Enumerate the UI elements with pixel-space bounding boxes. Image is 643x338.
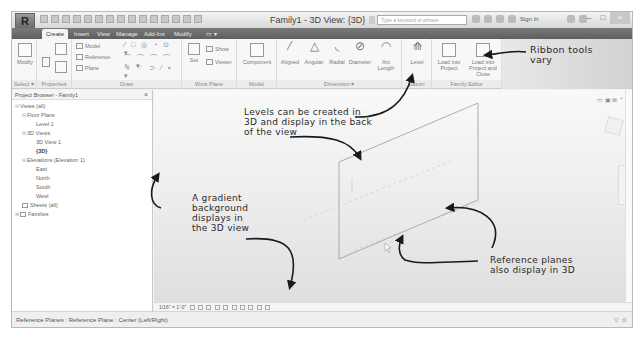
redo-icon[interactable] bbox=[73, 15, 81, 23]
modify-tool[interactable]: Modify bbox=[15, 43, 35, 65]
crop-region-icon[interactable] bbox=[240, 305, 245, 310]
load-into-project-close-tool[interactable]: Load into Project and Close bbox=[465, 43, 501, 77]
temp-hide-icon[interactable] bbox=[257, 305, 262, 310]
project-browser: Project Browser - Family1 × ⊟Views (all)… bbox=[12, 90, 153, 311]
3d-view-icon[interactable] bbox=[139, 15, 147, 23]
render-icon[interactable] bbox=[223, 305, 228, 310]
tree-item-3d-view-1[interactable]: 3D View 1 bbox=[12, 138, 152, 147]
maximize-button[interactable]: □ bbox=[596, 12, 610, 24]
dimension-panel-label[interactable]: Dimension ▾ bbox=[277, 80, 401, 88]
draw-shapes-row-3[interactable]: ∿ ⌔ ⊃ ⁄ ▪ ▾ bbox=[124, 63, 181, 80]
dimension-icon[interactable] bbox=[106, 15, 114, 23]
reference-plane-tool[interactable]: Plane bbox=[76, 65, 99, 71]
save-icon[interactable] bbox=[51, 15, 59, 23]
work-plane-viewer-tool[interactable]: Viewer bbox=[206, 59, 232, 65]
family-types-tool[interactable] bbox=[54, 43, 68, 57]
aligned-dimension-tool[interactable]: ⁄Aligned bbox=[279, 43, 301, 65]
radial-dimension-tool[interactable]: ◟Radial bbox=[327, 43, 347, 65]
tree-item-east[interactable]: East bbox=[12, 165, 152, 174]
print-icon[interactable] bbox=[84, 15, 92, 23]
tree-item-views-all[interactable]: ⊟Views (all) bbox=[12, 102, 152, 111]
switch-windows-icon[interactable] bbox=[183, 15, 191, 23]
close-icon[interactable]: × bbox=[144, 90, 148, 100]
tree-item-north[interactable]: North bbox=[12, 174, 152, 183]
tag-icon[interactable] bbox=[117, 15, 125, 23]
tree-item-level-1[interactable]: Level 1 bbox=[12, 120, 152, 129]
tab-create[interactable]: Create bbox=[42, 29, 68, 39]
level-tool[interactable]: ⟰Level bbox=[406, 43, 428, 65]
shadows-icon[interactable] bbox=[215, 305, 220, 310]
project-browser-header: Project Browser - Family1 × bbox=[12, 90, 152, 100]
application-menu-button[interactable]: R bbox=[15, 13, 35, 29]
viewer-icon bbox=[206, 59, 213, 65]
binoculars-icon[interactable] bbox=[472, 15, 480, 23]
tree-item-families[interactable]: ⊞Families bbox=[12, 210, 152, 219]
plane-label: Plane bbox=[85, 65, 99, 71]
tab-manage[interactable]: Manage bbox=[112, 29, 142, 39]
set-work-plane-tool[interactable]: Set bbox=[186, 43, 202, 63]
select-panel-label[interactable]: Select ▾ bbox=[12, 80, 36, 88]
tree-item-sheets[interactable]: Sheets (all) bbox=[12, 201, 152, 210]
load-into-project-label: Load into Project bbox=[438, 59, 461, 71]
annotation-line: A gradient bbox=[192, 193, 249, 203]
arc-length-dimension-tool[interactable]: ◠Arc Length bbox=[374, 43, 398, 71]
section-icon[interactable] bbox=[150, 15, 158, 23]
model-line-tool[interactable]: Model bbox=[76, 43, 100, 49]
close-hidden-icon[interactable] bbox=[172, 15, 180, 23]
customize-qat-icon[interactable] bbox=[194, 15, 202, 23]
tab-insert[interactable]: Insert bbox=[70, 29, 93, 39]
viewcube[interactable] bbox=[604, 116, 624, 136]
component-tool[interactable]: Component bbox=[239, 43, 275, 65]
tree-item-3d-views[interactable]: ⊟3D Views bbox=[12, 129, 152, 138]
tree-label: Views (all) bbox=[20, 103, 45, 109]
sign-in-link[interactable]: Sign In bbox=[520, 16, 539, 22]
undo-icon[interactable] bbox=[62, 15, 70, 23]
tab-modify[interactable]: Modify bbox=[170, 29, 196, 39]
reveal-hidden-icon[interactable] bbox=[265, 305, 270, 310]
view-scale[interactable]: 1/16" = 1'-0" bbox=[159, 304, 186, 310]
annotation-line: vary bbox=[530, 55, 593, 65]
minimize-button[interactable]: – bbox=[582, 12, 596, 24]
annotation-line: Levels can be created in bbox=[244, 107, 372, 117]
user-icon bbox=[508, 15, 516, 23]
tree-label: Sheets (all) bbox=[30, 202, 58, 208]
search-expand-icon[interactable] bbox=[369, 16, 375, 24]
reference-label: Reference bbox=[85, 54, 110, 60]
crop-view-icon[interactable] bbox=[232, 305, 237, 310]
open-icon[interactable] bbox=[40, 15, 48, 23]
3d-viewport[interactable]: ▭ ▣ ⊠ ⌃ Levels can be created in 3D and … bbox=[154, 90, 632, 302]
properties-tool[interactable] bbox=[41, 57, 51, 69]
tree-item-west[interactable]: West bbox=[12, 192, 152, 201]
star-icon[interactable] bbox=[496, 15, 504, 23]
filter-indicator[interactable]: ▽ :0 bbox=[614, 312, 626, 328]
exchange-icon[interactable] bbox=[567, 15, 575, 23]
tab-panel-toggle[interactable]: ▭ ▾ bbox=[202, 29, 221, 39]
subscription-icon[interactable] bbox=[484, 15, 492, 23]
load-into-project-tool[interactable]: Load into Project bbox=[435, 43, 463, 71]
close-button[interactable]: × bbox=[610, 12, 630, 24]
tree-label: Level 1 bbox=[36, 121, 54, 127]
diameter-dimension-tool[interactable]: ⊘Diameter bbox=[348, 43, 372, 65]
sun-path-icon[interactable] bbox=[206, 305, 211, 310]
measure-icon[interactable] bbox=[95, 15, 103, 23]
vertical-scrollbar[interactable] bbox=[625, 90, 632, 302]
tree-item-floor-plans[interactable]: ⊟Floor Plans bbox=[12, 111, 152, 120]
tab-view[interactable]: View bbox=[93, 29, 114, 39]
tree-item-3d-default[interactable]: {3D} bbox=[12, 147, 152, 156]
view-window-controls[interactable]: ▭ ▣ ⊠ ⌃ bbox=[597, 96, 624, 103]
viewer-label: Viewer bbox=[215, 59, 232, 65]
reference-line-tool[interactable]: Reference bbox=[76, 54, 110, 60]
text-icon[interactable] bbox=[128, 15, 136, 23]
view-control-bar: 1/16" = 1'-0" bbox=[154, 302, 632, 311]
search-input[interactable]: Type a keyword or phrase bbox=[377, 15, 467, 25]
detail-level-icon[interactable] bbox=[190, 305, 195, 310]
tab-add-ins[interactable]: Add-Ins bbox=[140, 29, 169, 39]
tree-item-elevations[interactable]: ⊟Elevations (Elevation 1) bbox=[12, 156, 152, 165]
lock-view-icon[interactable] bbox=[248, 305, 253, 310]
tree-item-south[interactable]: South bbox=[12, 183, 152, 192]
visual-style-icon[interactable] bbox=[198, 305, 203, 310]
thin-lines-icon[interactable] bbox=[161, 15, 169, 23]
show-work-plane-tool[interactable]: Show bbox=[206, 46, 229, 52]
angular-dimension-tool[interactable]: △Angular bbox=[303, 43, 325, 65]
family-category-tool[interactable] bbox=[54, 61, 68, 75]
